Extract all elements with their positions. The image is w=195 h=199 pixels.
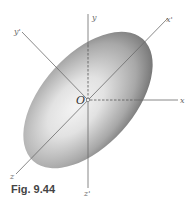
y-axis-label: y	[91, 13, 97, 22]
z-prime-axis-label: z'	[83, 189, 90, 198]
origin-point	[86, 98, 89, 101]
z-axis-label: z	[9, 172, 15, 181]
origin-label: O	[76, 94, 85, 107]
figure-caption: Fig. 9.44	[11, 183, 55, 195]
x-prime-axis-label: x'	[166, 15, 173, 24]
ellipsoid-diagram: O y x x' y' z z'	[0, 0, 195, 199]
x-axis-label: x	[180, 96, 185, 105]
y-prime-axis-label: y'	[13, 27, 21, 36]
